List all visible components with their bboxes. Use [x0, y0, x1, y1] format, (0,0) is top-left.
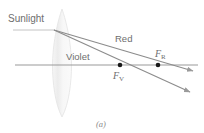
focal-point-red-dot: [156, 63, 161, 68]
focal-violet-subscript: V: [119, 75, 124, 83]
converging-lens: [53, 9, 72, 117]
focal-point-violet-dot: [118, 63, 123, 68]
focal-red-subscript: R: [161, 53, 166, 61]
red-label: Red: [115, 33, 132, 44]
chromatic-aberration-diagram: Sunlight Red Violet FV FR (a): [0, 0, 204, 133]
focal-red-label: FR: [154, 48, 166, 61]
figure-container: Sunlight Red Violet FV FR (a): [0, 0, 204, 133]
sunlight-label: Sunlight: [8, 13, 44, 24]
violet-label: Violet: [66, 51, 90, 62]
figure-caption: (a): [96, 119, 106, 129]
focal-violet-label: FV: [112, 70, 124, 83]
